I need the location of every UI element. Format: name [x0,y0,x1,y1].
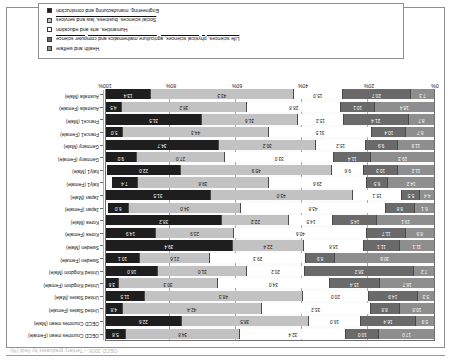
bar-segment-3: 43.0 [210,190,352,200]
bar-value-label: 9.9 [378,142,384,147]
bar-segment-4: 11.5 [106,291,144,301]
bar-value-label: 15.2 [336,142,345,147]
bar-segment-2: 31.5 [268,127,371,137]
bar-row[interactable]: 30.68.929.321.610.1 [106,253,434,263]
bar-value-label: 22.0 [139,168,148,173]
bar-segment-3: 31.6 [201,114,297,124]
bar-row[interactable]: 7.238.220.231.018.0 [106,266,434,276]
legend-label: Humanities, arts and education [56,27,128,33]
y-tickmark [100,321,103,322]
bar-segment-2: 43.8 [240,203,385,213]
y-category-label: OECD Countries mean (Female) [28,332,99,337]
y-tickmark [100,271,103,272]
legend-item-science[interactable]: Life sciences, physical sciences, agricu… [47,37,239,43]
bar-segment-3: 43.3 [150,89,292,99]
bar-row[interactable]: 11.111.118.822.439.4 [106,240,434,250]
bar-row[interactable]: 8.710.431.544.35.0 [106,127,434,137]
y-tickmark [100,145,103,146]
bar-value-label: 43.0 [277,193,286,198]
bar-value-label: 33.2 [311,306,320,311]
bar-row[interactable]: 10.88.833.242.44.8 [106,303,434,313]
plot-area: 17.010.032.434.85.85.916.416.038.522.610… [105,89,435,341]
y-category-label: United States (Male) [54,295,99,300]
bar-value-label: 38.5 [240,319,249,324]
bar-segment-1: 11.4 [333,152,371,162]
bar-row[interactable]: 17.010.032.434.85.8 [106,329,434,339]
bar-value-label: 18.8 [329,243,338,248]
bar-row[interactable]: 5.916.416.038.522.6 [106,316,434,326]
bar-row[interactable]: 8.721.415.231.631.5 [106,114,434,124]
bar-segment-1: 8.9 [305,253,334,263]
bar-value-label: 11.2 [412,168,421,173]
bar-segment-0: 11.2 [397,165,434,175]
bar-value-label: 11.6 [411,142,420,147]
bar-row[interactable]: 6.18.843.834.06.0 [106,203,434,213]
bar-value-label: 29.3 [253,256,262,261]
legend-label: Life sciences, physical sciences, agricu… [56,37,239,43]
bar-row[interactable]: 16.715.434.030.33.6 [106,278,434,288]
y-tickmark [100,334,103,335]
bar-row[interactable]: 14.26.529.639.87.4 [106,177,434,187]
legend-label: Engineering, manufacturing and construct… [56,8,159,14]
bar-segment-2: 16.0 [308,316,361,326]
y-category-label: United States (Female) [49,307,99,312]
bar-value-label: 17.0 [402,331,411,336]
x-axis-ticks: 0%20%40%60%80%100% [105,77,435,89]
bar-segment-4: 22.0 [107,165,180,175]
bar-row[interactable]: 11.210.39.645.922.0 [106,165,434,175]
bar-row[interactable]: 5.314.920.048.311.5 [106,291,434,301]
gridline-100 [103,90,104,340]
bar-segment-2: 15.2 [316,140,365,150]
legend-item-engineering[interactable]: Engineering, manufacturing and construct… [47,8,159,14]
y-tickmark [100,107,103,108]
bar-segment-3: 38.5 [181,316,308,326]
bar-row[interactable]: 8.911.740.623.914.9 [106,228,434,238]
bar-segment-1: 38.2 [304,266,413,276]
bar-row[interactable]: 19.311.433.027.09.0 [106,152,434,162]
bar-segment-3: 48.3 [144,291,302,301]
bar-value-label: 10.8 [412,306,421,311]
bar-segment-4: 3.6 [106,278,118,288]
bar-value-label: 38.2 [179,105,188,110]
x-tick-label: 40% [298,83,308,89]
bar-value-label: 7.4 [121,180,127,185]
bar-value-label: 14.2 [407,180,416,185]
y-tickmark [100,296,103,297]
legend-swatch-icon [47,18,52,23]
bar-segment-3: 22.2 [221,215,288,225]
bar-segment-0: 5.9 [415,316,434,326]
y-category-label: Sweden (Male) [66,244,99,249]
legend-item-social[interactable]: Social sciences, business, law and servi… [47,18,156,24]
bar-segment-4: 18.0 [106,266,157,276]
y-tickmark [100,157,103,158]
bar-row[interactable]: 18.410.128.838.24.5 [106,102,434,112]
bar-value-label: 15.1 [373,193,382,198]
bar-value-label: 14.9 [126,231,135,236]
bar-value-label: 8.7 [418,117,424,122]
bar-value-label: 30.6 [380,256,389,261]
bar-row[interactable]: 4.45.515.143.031.5 [106,190,434,200]
bar-value-label: 20.0 [331,294,340,299]
bar-segment-1: 11.1 [363,240,398,250]
bar-value-label: 14.5 [350,218,359,223]
bar-value-label: 34.7 [158,142,167,147]
bar-segment-3: 27.0 [136,152,225,162]
page-divider [6,355,445,356]
x-tick-label: 0% [431,83,439,89]
y-tickmark [100,183,103,184]
legend-item-health[interactable]: Health and welfare [47,46,99,52]
bar-row[interactable]: 11.69.915.230.234.7 [106,140,434,150]
bar-segment-2: 34.0 [217,278,329,288]
bar-row[interactable]: 7.320.715.043.313.4 [106,89,434,99]
bar-segment-1: 9.9 [365,140,397,150]
bar-segment-3: 22.4 [232,240,303,250]
bar-segment-0: 6.1 [414,203,434,213]
bar-row[interactable]: 19.114.514.522.238.2 [106,215,434,225]
bar-segment-2: 9.6 [331,165,363,175]
legend-item-humanities[interactable]: Humanities, arts and education [47,27,128,33]
bar-value-label: 28.8 [289,105,298,110]
bar-value-label: 29.6 [313,180,322,185]
y-tickmark [100,283,103,284]
bar-value-label: 11.1 [377,243,386,248]
y-category-label: Korea (Female) [65,232,99,237]
